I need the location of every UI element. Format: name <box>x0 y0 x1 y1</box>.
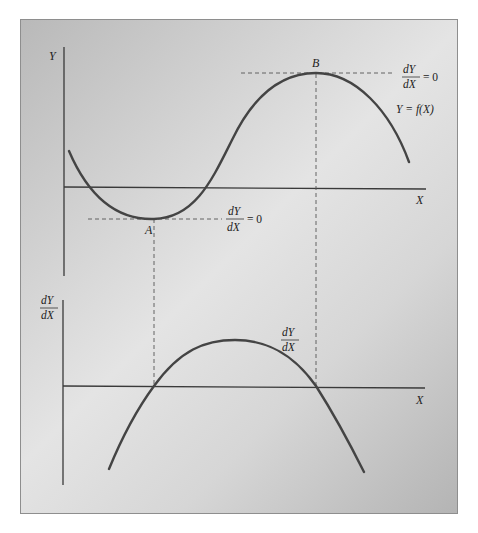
svg-text:dX: dX <box>227 221 241 233</box>
curve-label: Y = f(X) <box>396 103 434 116</box>
bottom-x-axis-label: X <box>415 393 424 407</box>
derivative-curve-label: dY dX <box>281 326 299 353</box>
point-a-derivative-annotation: dY dX = 0 <box>226 205 262 233</box>
derivative-diagram: Y X Y = f(X) B A dY dX = 0 dY dX = 0 dY … <box>0 0 478 533</box>
top-panel: Y X Y = f(X) B A dY dX = 0 dY dX = 0 <box>49 47 438 386</box>
svg-text:= 0: = 0 <box>247 213 262 225</box>
svg-text:dX: dX <box>282 341 296 353</box>
top-x-axis-label: X <box>415 193 424 207</box>
bottom-y-axis-label: dY dX <box>40 294 58 321</box>
point-a-label: A <box>144 223 153 237</box>
top-x-axis <box>64 187 426 189</box>
svg-text:dX: dX <box>403 78 417 90</box>
svg-text:dY: dY <box>41 294 55 306</box>
derivative-curve <box>109 340 364 472</box>
svg-text:dY: dY <box>282 326 296 338</box>
svg-text:dX: dX <box>41 309 55 321</box>
bottom-x-axis <box>63 386 425 388</box>
point-b-label: B <box>312 56 320 70</box>
point-b-derivative-annotation: dY dX = 0 <box>402 63 438 90</box>
svg-text:= 0: = 0 <box>423 71 438 83</box>
top-y-axis-label: Y <box>49 49 57 63</box>
svg-text:dY: dY <box>228 205 242 217</box>
svg-text:dY: dY <box>403 63 417 75</box>
function-curve <box>69 73 409 219</box>
bottom-panel: dY dX dY dX X <box>40 294 425 485</box>
